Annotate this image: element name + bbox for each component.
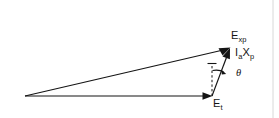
label-exp-main: E bbox=[231, 29, 239, 41]
angle-arc-arrowhead bbox=[221, 70, 226, 75]
label-exp: Exp bbox=[231, 30, 246, 41]
vector-exp bbox=[25, 48, 231, 97]
vector-iaxp-shaft bbox=[212, 55, 228, 97]
label-iaxp-i-sub: a bbox=[238, 52, 242, 61]
label-et-main: E bbox=[213, 97, 221, 109]
vector-et bbox=[25, 92, 213, 100]
label-iaxp-x: X bbox=[242, 46, 250, 58]
angle-arc-theta bbox=[213, 70, 227, 75]
vector-iaxp bbox=[212, 48, 230, 96]
vector-exp-shaft bbox=[25, 49, 228, 96]
label-et: Et bbox=[213, 98, 223, 109]
label-exp-sub: xp bbox=[239, 35, 247, 44]
label-iaxp: IaXp bbox=[235, 47, 254, 58]
phasor-diagram-figure: Exp IaXp Et θ bbox=[0, 0, 279, 118]
label-et-sub: t bbox=[221, 103, 223, 112]
label-theta: θ bbox=[236, 68, 241, 79]
label-iaxp-x-sub: p bbox=[250, 52, 254, 61]
vector-et-arrowhead bbox=[203, 92, 213, 100]
